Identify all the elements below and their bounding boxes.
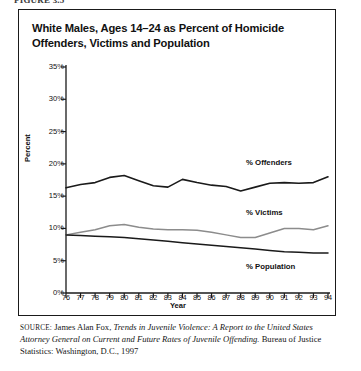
- figure-root: FIGURE 3.5 White Males, Ages 14–24 as Pe…: [0, 0, 361, 371]
- series-line-offenders: [66, 175, 328, 190]
- x-axis-label: Year: [19, 301, 337, 310]
- figure-box: White Males, Ages 14–24 as Percent of Ho…: [18, 9, 336, 316]
- series-line-victims: [66, 225, 328, 238]
- series-line-population: [66, 235, 328, 253]
- figure-caption: FIGURE 3.5: [14, 0, 65, 3]
- series-label-victims: % Victims: [246, 208, 283, 217]
- series-label-offenders: % Offenders: [246, 158, 292, 167]
- series-lines: [66, 175, 328, 252]
- plot-area: Percent 0%5%10%15%20%25%30%35% 767778798…: [19, 10, 337, 317]
- y-axis-ticks: [61, 67, 66, 293]
- source-keyword: source:: [20, 324, 52, 332]
- series-label-population: % Population: [246, 262, 295, 271]
- source-note: source: James Alan Fox, Trends in Juveni…: [20, 322, 338, 357]
- source-author: James Alan Fox,: [54, 322, 111, 332]
